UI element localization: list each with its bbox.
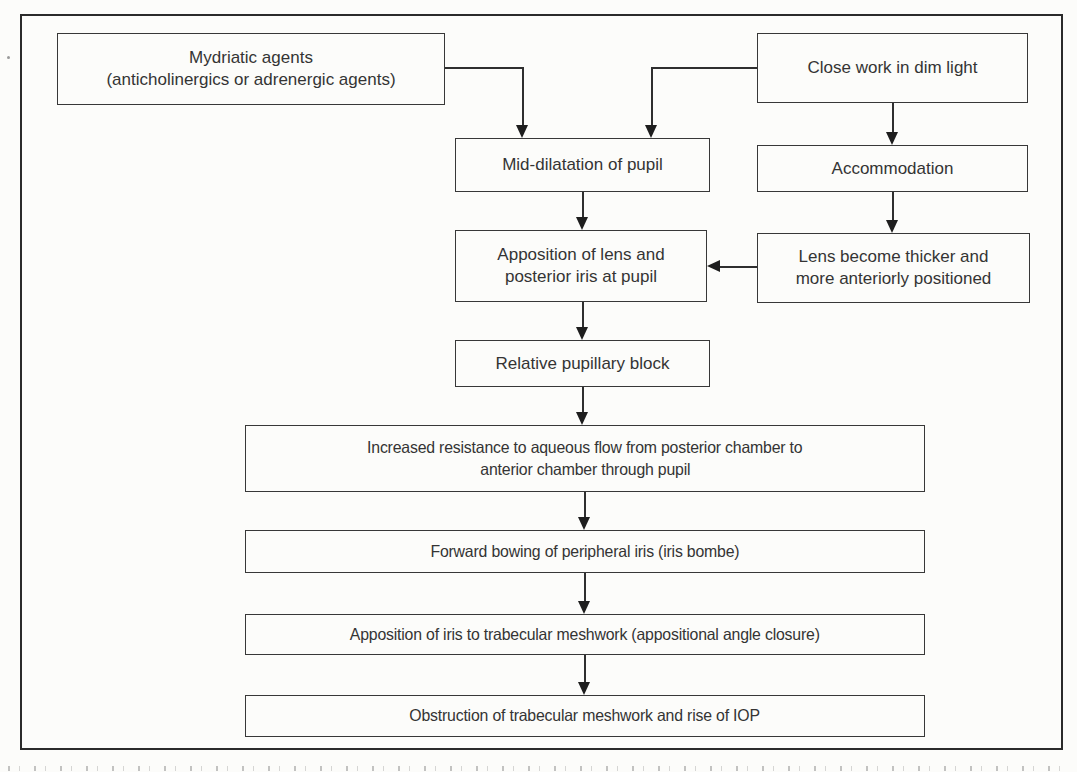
arrowhead-down xyxy=(886,132,898,145)
node-label: Mid-dilatation of pupil xyxy=(502,154,663,176)
arrowhead-down xyxy=(645,125,657,138)
connector-line xyxy=(651,67,653,126)
arrowhead-down xyxy=(516,125,528,138)
flowchart-figure: Mydriatic agents (anticholinergics or ad… xyxy=(0,0,1077,772)
arrowhead-down xyxy=(578,517,590,530)
node-apposition-lens-iris: Apposition of lens and posterior iris at… xyxy=(455,230,707,302)
node-label: more anteriorly positioned xyxy=(796,268,992,290)
node-label: posterior iris at pupil xyxy=(497,266,664,288)
connector-line xyxy=(584,573,586,602)
node-label: Close work in dim light xyxy=(807,57,977,79)
arrowhead-down xyxy=(576,217,588,230)
node-label: Lens become thicker and xyxy=(796,246,992,268)
arrowhead-down xyxy=(576,327,588,340)
node-label: Increased resistance to aqueous flow fro… xyxy=(367,437,802,458)
connector-line xyxy=(445,67,524,69)
arrowhead-down xyxy=(578,682,590,695)
arrowhead-down xyxy=(576,412,588,425)
connector-line xyxy=(584,492,586,518)
node-label: Forward bowing of peripheral iris (iris … xyxy=(431,541,740,562)
node-obstruction-iop: Obstruction of trabecular meshwork and r… xyxy=(245,695,925,737)
connector-line xyxy=(582,387,584,414)
connector-line xyxy=(892,192,894,221)
node-label: Obstruction of trabecular meshwork and r… xyxy=(410,705,760,726)
cropped-caption-fragment xyxy=(8,766,1060,771)
node-label: Apposition of iris to trabecular meshwor… xyxy=(350,624,820,645)
node-iris-bombe: Forward bowing of peripheral iris (iris … xyxy=(245,530,925,573)
node-label: Relative pupillary block xyxy=(496,353,670,375)
node-increased-resistance: Increased resistance to aqueous flow fro… xyxy=(245,425,925,492)
node-mydriatic-agents: Mydriatic agents (anticholinergics or ad… xyxy=(57,33,445,105)
node-mid-dilatation: Mid-dilatation of pupil xyxy=(455,138,710,192)
node-relative-pupillary-block: Relative pupillary block xyxy=(455,340,710,387)
connector-line xyxy=(652,67,757,69)
connector-line xyxy=(584,655,586,683)
arrowhead-left xyxy=(707,260,720,272)
node-appositional-angle-closure: Apposition of iris to trabecular meshwor… xyxy=(245,614,925,655)
node-label: Accommodation xyxy=(832,158,954,180)
node-close-work-dim-light: Close work in dim light xyxy=(757,33,1028,103)
scan-speck xyxy=(7,56,10,59)
connector-line xyxy=(718,266,757,268)
connector-line xyxy=(582,302,584,329)
arrowhead-down xyxy=(886,220,898,233)
node-lens-thicker: Lens become thicker and more anteriorly … xyxy=(757,233,1030,303)
node-label: Apposition of lens and xyxy=(497,244,664,266)
connector-line xyxy=(522,67,524,126)
node-label: Mydriatic agents xyxy=(106,47,395,69)
node-label: anterior chamber through pupil xyxy=(480,459,690,480)
connector-line xyxy=(892,103,894,133)
node-label: (anticholinergics or adrenergic agents) xyxy=(106,69,395,91)
arrowhead-down xyxy=(578,601,590,614)
connector-line xyxy=(582,192,584,218)
node-accommodation: Accommodation xyxy=(757,145,1028,192)
